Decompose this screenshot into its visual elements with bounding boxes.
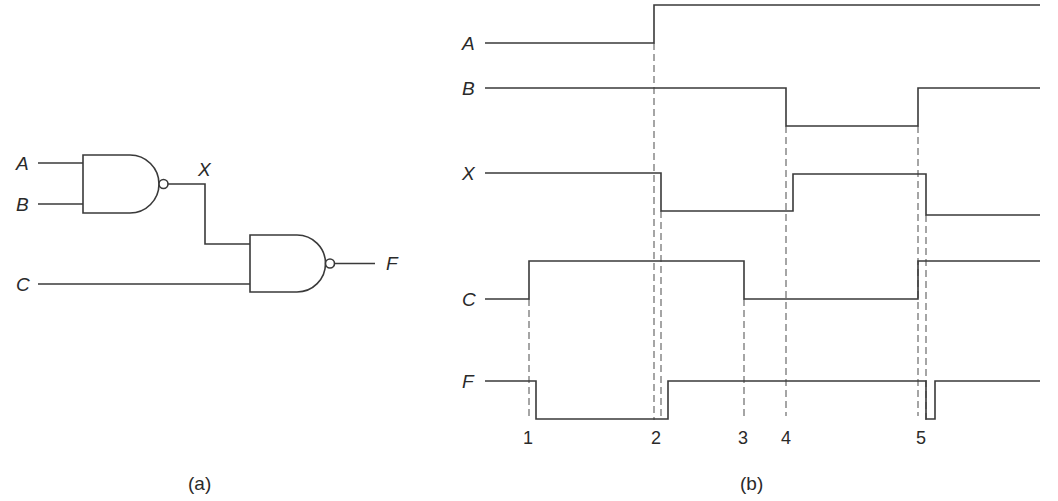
input-label-a: A (15, 153, 29, 174)
input-label-c: C (16, 274, 30, 295)
caption-a: (a) (188, 473, 211, 494)
signal-label-b: B (462, 78, 475, 99)
circuit-diagram: A B C X F (a) (15, 153, 399, 494)
inversion-bubble-2 (326, 259, 335, 268)
node-label-x: X (197, 159, 212, 180)
signal-label-a: A (461, 33, 475, 54)
waveform-c (485, 261, 1040, 299)
signal-label-f: F (462, 371, 475, 392)
time-marker-5: 5 (916, 428, 926, 448)
inversion-bubble-1 (159, 180, 168, 189)
signal-label-x: X (461, 163, 476, 184)
waveform-a (485, 5, 1040, 43)
time-marker-2: 2 (651, 428, 661, 448)
caption-b: (b) (740, 473, 763, 494)
waveform-x (485, 173, 1040, 215)
nand-gate-1 (83, 155, 159, 213)
wire-x (168, 184, 250, 244)
time-marker-3: 3 (738, 428, 748, 448)
signal-label-c: C (462, 289, 476, 310)
time-marker-1: 1 (523, 428, 533, 448)
output-label-f: F (386, 253, 399, 274)
nand-gate-2 (250, 235, 326, 292)
waveform-b (485, 88, 1040, 126)
timing-diagram: A B X C F 1 2 3 4 5 (b) (461, 5, 1040, 494)
waveform-f (485, 381, 1040, 419)
input-label-b: B (16, 194, 29, 215)
time-marker-4: 4 (781, 428, 791, 448)
logic-circuit-figure: A B C X F (a) A B X C F (0, 0, 1058, 501)
